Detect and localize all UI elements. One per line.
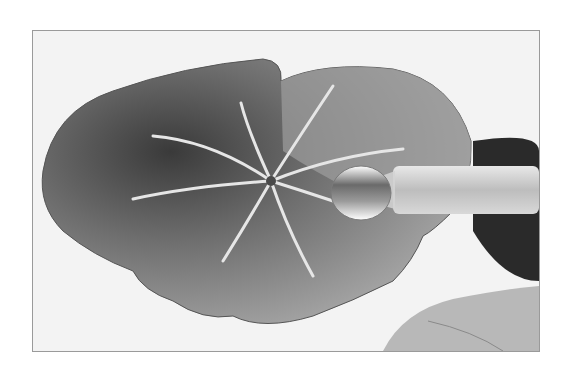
photo-frame: Watercolor leaf with glass rod — [32, 30, 540, 352]
glass-rod-tip — [331, 166, 391, 220]
leaf-photo — [33, 31, 539, 351]
glass-rod-body — [393, 166, 539, 214]
vein-hub — [266, 176, 276, 186]
